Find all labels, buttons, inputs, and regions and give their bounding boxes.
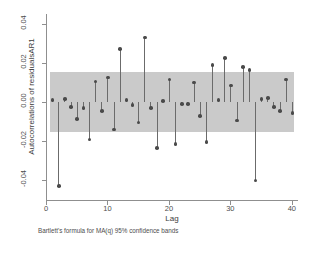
acf-point (125, 98, 129, 102)
confidence-band (50, 72, 295, 133)
acf-stem (95, 82, 96, 103)
acf-stem (58, 102, 59, 186)
acf-point (63, 97, 67, 101)
acf-point (248, 68, 252, 72)
acf-stem (144, 37, 145, 102)
acf-stem (255, 102, 256, 180)
acf-stem (175, 102, 176, 144)
acf-stem (194, 83, 195, 103)
acf-point (161, 99, 165, 103)
acf-point (149, 106, 153, 110)
acf-point (205, 140, 209, 144)
acf-point (57, 184, 61, 188)
acf-stem (89, 102, 90, 139)
acf-stem (212, 65, 213, 102)
acf-stem (138, 102, 139, 123)
acf-stem (157, 102, 158, 148)
acf-point (241, 65, 245, 69)
acf-point (223, 56, 227, 60)
x-tick-label: 40 (280, 204, 304, 213)
acf-stem (243, 67, 244, 102)
acf-point (192, 81, 196, 85)
acf-point (198, 114, 202, 118)
acf-stem (120, 49, 121, 102)
acf-point (75, 117, 79, 121)
acf-point (278, 109, 282, 113)
chart-footnote: Bartlett's formula for MA(q) 95% confide… (38, 227, 179, 234)
y-axis-line (46, 14, 47, 200)
x-tick-label: 20 (157, 204, 181, 213)
acf-point (82, 106, 86, 110)
acf-point (211, 63, 215, 67)
acf-stem (114, 102, 115, 129)
acf-stem (107, 78, 108, 102)
y-tick-mark (42, 63, 46, 64)
acf-point (180, 102, 184, 106)
acf-stem (206, 102, 207, 142)
acf-stem (286, 80, 287, 103)
y-tick-mark (42, 102, 46, 103)
acf-chart-figure: 0.040.020.00-0.02-0.04 010203040 Autocor… (0, 0, 316, 255)
acf-stem (224, 58, 225, 102)
x-axis-title: Lag (46, 214, 298, 223)
y-tick-mark (42, 24, 46, 25)
acf-point (155, 146, 159, 150)
x-tick-label: 10 (95, 204, 119, 213)
acf-point (143, 36, 147, 40)
acf-point (186, 102, 190, 106)
acf-stem (237, 102, 238, 121)
acf-point (272, 105, 276, 109)
acf-point (291, 111, 295, 115)
acf-point (69, 105, 73, 109)
acf-stem (230, 85, 231, 102)
acf-point (266, 96, 270, 100)
acf-point (100, 109, 104, 113)
y-tick-mark (42, 141, 46, 142)
acf-stem (169, 80, 170, 103)
acf-stem (249, 70, 250, 102)
x-axis-line (46, 200, 298, 201)
x-tick-label: 30 (218, 204, 242, 213)
y-tick-mark (42, 180, 46, 181)
y-axis-title: Autocorrelations of residualsAR1 (27, 12, 36, 182)
x-tick-label: 0 (34, 204, 58, 213)
acf-point (229, 84, 233, 88)
